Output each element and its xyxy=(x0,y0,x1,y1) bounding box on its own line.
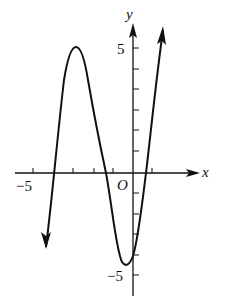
y-tick-label-neg5: −5 xyxy=(107,268,123,284)
x-axis xyxy=(15,168,200,177)
y-axis-label: y xyxy=(124,6,133,22)
x-axis-label: x xyxy=(201,164,209,180)
origin-label: O xyxy=(117,177,128,193)
x-tick-label-neg5: −5 xyxy=(16,178,32,194)
function-curve xyxy=(46,30,163,265)
x-axis-ticks xyxy=(33,168,152,173)
y-tick-label-5: 5 xyxy=(117,41,125,57)
curve-left-arrow-icon xyxy=(41,232,51,249)
function-graph: y x 5 −5 −5 O xyxy=(0,0,227,304)
